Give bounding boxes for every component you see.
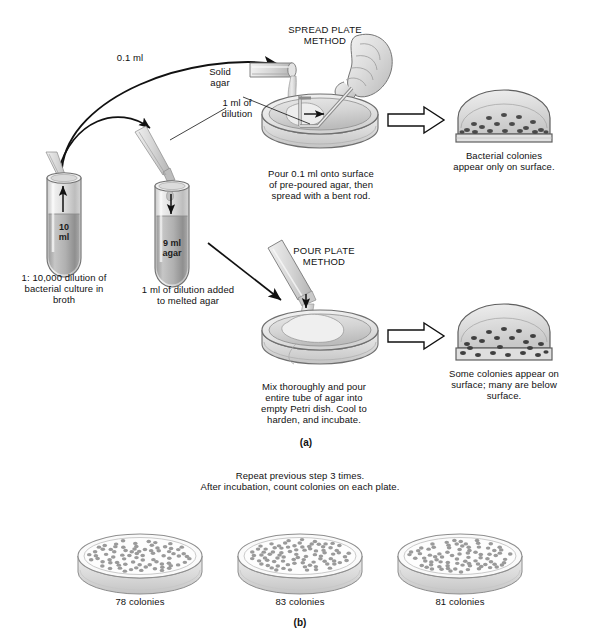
block-arrow-spread xyxy=(388,107,444,133)
label-volume-spread: 0.1 ml xyxy=(100,52,160,64)
agar-tube-caption-l1: 1 ml of dilution added xyxy=(118,284,258,296)
agar-tube-volume-l1: 9 ml xyxy=(152,238,192,248)
broth-tube-caption-l2: bacterial culture in xyxy=(2,283,126,295)
panel-a-label: (a) xyxy=(282,437,330,449)
plate-3-count-label: 81 colonies xyxy=(410,596,510,608)
agar-tube-caption-l2: to melted agar xyxy=(118,295,258,307)
spread-instruction-l1: Pour 0.1 ml onto surface xyxy=(244,168,398,180)
figure-caption-strip xyxy=(0,631,601,643)
broth-tube-illustration xyxy=(46,152,81,277)
pour-instruction-l3: empty Petri dish. Cool to xyxy=(236,403,392,415)
broth-tube-volume-l2: ml xyxy=(44,232,84,242)
agar-tube-illustration xyxy=(135,126,189,287)
pour-instruction-l4: harden, and incubate. xyxy=(236,414,392,426)
pour-instruction-l2: entire tube of agar into xyxy=(236,392,392,404)
agar-tube-volume-l2: agar xyxy=(152,248,192,258)
spread-plate-heading-l2: METHOD xyxy=(270,35,380,47)
broth-tube-volume-l1: 10 xyxy=(44,222,84,232)
pour-result-l1: Some colonies appear on xyxy=(430,368,578,380)
spread-result-l2: appear only on surface. xyxy=(442,161,566,173)
spread-plate-heading-l1: SPREAD PLATE xyxy=(270,24,380,36)
solid-agar-label-l1: Solid xyxy=(196,66,244,78)
flow-arrow-dilution xyxy=(58,117,150,172)
pour-instruction-l1: Mix thoroughly and pour xyxy=(236,381,392,393)
pour-plate-heading-l2: METHOD xyxy=(272,256,376,268)
pour-result-l3: surface. xyxy=(430,390,578,402)
solid-agar-label-l2: agar xyxy=(196,77,244,89)
counted-plate-1 xyxy=(78,534,202,594)
pour-plate-heading-l1: POUR PLATE xyxy=(272,245,376,257)
panel-b-heading-l2: After incubation, count colonies on each… xyxy=(150,481,450,493)
panel-b-heading-l1: Repeat previous step 3 times. xyxy=(150,470,450,482)
counted-plate-2 xyxy=(238,534,362,594)
plate-count-figure: 0.1 ml 1 ml of dilution 10 ml 9 ml agar … xyxy=(0,0,601,643)
broth-tube-caption-l3: broth xyxy=(2,294,126,306)
spread-instruction-l3: spread with a bent rod. xyxy=(244,190,398,202)
broth-tube-caption-l1: 1: 10,000 dilution of xyxy=(2,272,126,284)
plate-2-count-label: 83 colonies xyxy=(250,596,350,608)
spread-result-crosssection xyxy=(456,90,552,142)
block-arrow-pour xyxy=(388,323,444,349)
pour-result-crosssection xyxy=(456,304,552,360)
pour-result-l2: surface; many are below xyxy=(430,379,578,391)
plate-1-count-label: 78 colonies xyxy=(90,596,190,608)
spread-plate-dish xyxy=(250,34,392,148)
spread-result-l1: Bacterial colonies xyxy=(442,150,566,162)
spread-instruction-l2: of pre-poured agar, then xyxy=(244,179,398,191)
label-volume-pour-l1: 1 ml of xyxy=(206,97,268,109)
figure-illustration xyxy=(0,0,601,643)
label-volume-pour-l2: dilution xyxy=(206,108,268,120)
panel-b-label: (b) xyxy=(276,617,324,629)
counted-plate-3 xyxy=(398,534,522,594)
